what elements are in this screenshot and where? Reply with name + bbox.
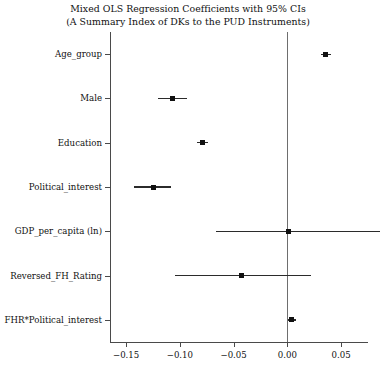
- confidence-interval-bar: [216, 231, 379, 232]
- coefficient-point: [286, 229, 291, 234]
- coefficient-point: [170, 96, 175, 101]
- coefficient-point: [151, 185, 156, 190]
- y-axis-label: Education: [0, 138, 102, 148]
- y-axis-label: Age_group: [0, 49, 102, 59]
- x-axis-tick-label: −0.05: [214, 350, 254, 360]
- y-axis-label: Male: [0, 93, 102, 103]
- x-axis-tick: [126, 342, 127, 347]
- coefficient-point: [289, 317, 294, 322]
- plot-area: [110, 32, 368, 342]
- x-axis-tick: [234, 342, 235, 347]
- y-axis-label: Reversed_FH_Rating: [0, 271, 102, 281]
- zero-reference-line: [287, 32, 288, 342]
- x-axis-line: [110, 342, 368, 343]
- coefficient-point: [200, 140, 205, 145]
- x-axis-tick-label: 0.00: [267, 350, 307, 360]
- x-axis-tick-label: −0.15: [106, 350, 146, 360]
- y-axis-label: Political_interest: [0, 182, 102, 192]
- x-axis-tick: [341, 342, 342, 347]
- y-axis-label: GDP_per_capita (ln): [0, 226, 102, 236]
- y-axis-label: FHR*Political_interest: [0, 315, 102, 325]
- x-axis-tick: [180, 342, 181, 347]
- y-axis-labels: Age_groupMaleEducationPolitical_interest…: [0, 0, 102, 373]
- coefficient-point: [239, 273, 244, 278]
- coefficient-point: [323, 52, 328, 57]
- x-axis-tick: [287, 342, 288, 347]
- x-axis-tick-label: −0.10: [160, 350, 200, 360]
- x-axis-tick-label: 0.05: [321, 350, 361, 360]
